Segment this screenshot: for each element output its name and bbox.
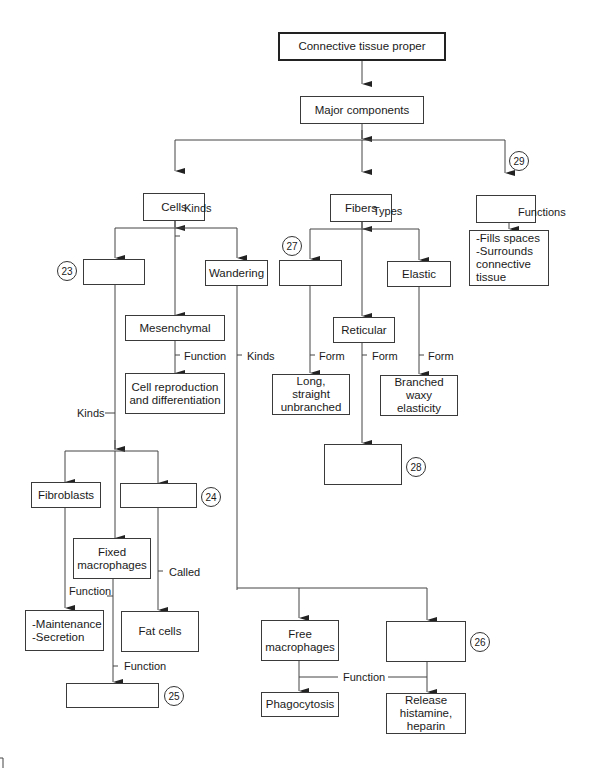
- label-form: Form: [319, 350, 345, 362]
- label-function: Function: [69, 585, 111, 597]
- label-form: Form: [372, 350, 398, 362]
- node-macrophage-function-blank[interactable]: [66, 683, 159, 708]
- blank-number-24: 24: [201, 487, 221, 507]
- concept-map: Connective tissue proper Major component…: [0, 0, 595, 768]
- node-free-macrophages: Free macrophages: [261, 620, 339, 661]
- label-kinds: Kinds: [184, 202, 212, 214]
- node-fibroblast-function: -Maintenance -Secretion: [25, 610, 104, 651]
- node-collagen-form: Long, straight unbranched: [272, 374, 350, 415]
- label-kinds: Kinds: [247, 350, 275, 362]
- blank-number-25: 25: [164, 686, 184, 706]
- node-ground-functions: -Fills spaces -Surrounds connective tiss…: [469, 230, 549, 286]
- blank-number-29: 29: [509, 151, 529, 171]
- blank-number-23: 23: [57, 261, 77, 281]
- label-form: Form: [428, 350, 454, 362]
- node-elastic-form: Branched waxy elasticity: [380, 375, 458, 416]
- node-connective-tissue-proper: Connective tissue proper: [278, 32, 446, 61]
- blank-number-26: 26: [470, 632, 490, 652]
- blank-number-28: 28: [406, 457, 426, 477]
- label-function: Function: [343, 671, 385, 683]
- node-reticular: Reticular: [333, 317, 395, 343]
- node-fibroblasts: Fibroblasts: [31, 482, 101, 508]
- node-fat-cells: Fat cells: [121, 611, 199, 652]
- label-functions: Functions: [518, 206, 566, 218]
- node-collagenous-blank[interactable]: [279, 260, 342, 286]
- label-function: Function: [124, 660, 166, 672]
- node-mesenchymal: Mesenchymal: [125, 315, 225, 341]
- node-fixed-macrophages: Fixed macrophages: [73, 538, 151, 579]
- node-reticular-form-blank[interactable]: [324, 444, 402, 485]
- label-function: Function: [184, 350, 226, 362]
- blank-number-27: 27: [282, 236, 302, 256]
- node-elastic: Elastic: [387, 261, 451, 287]
- label-called: Called: [169, 566, 200, 578]
- node-major-components: Major components: [300, 96, 424, 124]
- node-wandering: Wandering: [205, 260, 268, 286]
- node-fixed-cells-blank[interactable]: [83, 259, 145, 285]
- label-kinds: Kinds: [77, 407, 105, 419]
- node-mesenchymal-function: Cell reproduction and differentiation: [125, 373, 225, 414]
- label-types: Types: [373, 205, 402, 217]
- node-phagocytosis: Phagocytosis: [261, 692, 339, 717]
- node-adipose-blank[interactable]: [120, 483, 197, 508]
- node-mast-cells-blank[interactable]: [386, 621, 466, 662]
- node-mast-function: Release histamine, heparin: [386, 693, 466, 734]
